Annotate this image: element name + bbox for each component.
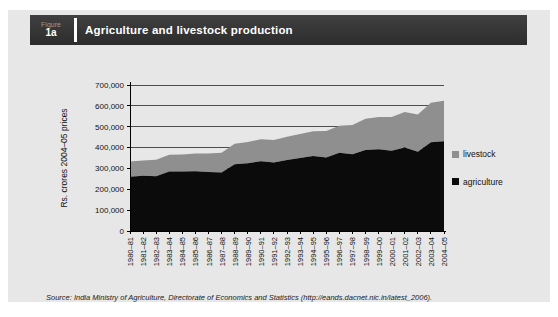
y-tick-label: 100,000 — [95, 206, 124, 215]
y-tick-label: 0 — [120, 227, 125, 236]
figure-card: Figure 1a Agriculture and livestock prod… — [8, 10, 550, 302]
x-tick-label: 2001–02 — [401, 237, 410, 266]
x-tick-label: 1982–83 — [152, 237, 161, 266]
x-tick-label: 1986–87 — [205, 237, 214, 266]
x-tick-label: 1993–94 — [296, 237, 305, 266]
source-text: India Ministry of Agriculture, Directora… — [72, 293, 432, 302]
y-tick-label: 700,000 — [95, 81, 124, 90]
x-tick-label: 1992–93 — [283, 237, 292, 266]
x-tick-label: 1996–97 — [335, 237, 344, 266]
x-tick-label: 1991–92 — [270, 237, 279, 266]
source-prefix: Source: — [46, 293, 72, 302]
x-tick-label: 1990–91 — [257, 237, 266, 266]
x-tick-label: 2002–03 — [414, 237, 423, 266]
y-tick-label: 300,000 — [95, 164, 124, 173]
legend-label-livestock: livestock — [463, 150, 496, 159]
y-tick-label: 200,000 — [95, 185, 124, 194]
x-tick-label: 2004–05 — [440, 237, 449, 266]
y-tick-label: 400,000 — [95, 143, 124, 152]
legend-label-agriculture: agriculture — [463, 178, 503, 187]
x-tick-label: 1997–98 — [348, 237, 357, 266]
x-tick-label: 2000–01 — [388, 237, 397, 266]
agriculture-swatch-icon — [452, 178, 459, 185]
y-tick-label: 600,000 — [95, 102, 124, 111]
x-tick-label: 1987–88 — [218, 237, 227, 266]
y-tick-label: 500,000 — [95, 123, 124, 132]
source-note: Source: India Ministry of Agriculture, D… — [46, 293, 546, 302]
livestock-swatch-icon — [452, 151, 459, 158]
x-tick-label: 1989–90 — [244, 237, 253, 266]
x-tick-label: 1995–96 — [322, 237, 331, 266]
x-tick-label: 1999–00 — [375, 237, 384, 266]
x-tick-label: 1998–99 — [362, 237, 371, 266]
legend-item-livestock: livestock — [452, 150, 503, 159]
x-tick-label: 1984–85 — [178, 237, 187, 266]
x-tick-label: 1983–84 — [165, 237, 174, 266]
x-tick-label: 1994–95 — [309, 237, 318, 266]
x-tick-label: 2003–04 — [427, 237, 436, 266]
x-tick-label: 1985–86 — [191, 237, 200, 266]
x-tick-label: 1981–82 — [139, 237, 148, 266]
x-tick-label: 1980–81 — [126, 237, 135, 266]
legend-item-agriculture: agriculture — [452, 178, 503, 187]
x-tick-label: 1988–89 — [231, 237, 240, 266]
chart-legend: livestock agriculture — [452, 150, 503, 205]
